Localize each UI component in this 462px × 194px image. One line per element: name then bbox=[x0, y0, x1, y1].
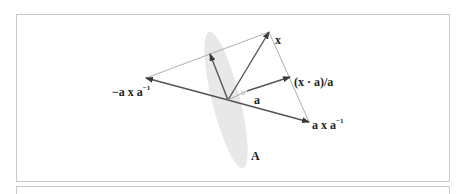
label-a-x-a-inv-base: a x a bbox=[312, 118, 336, 132]
label-plane-A: A bbox=[251, 150, 260, 162]
label-plane-A-text: A bbox=[251, 149, 260, 163]
label-a: a bbox=[254, 94, 260, 106]
label-projection: (x · a)/a bbox=[294, 76, 333, 88]
label-a-x-a-inv: a x a−1 bbox=[312, 119, 344, 131]
label-neg-a-x-a-inv-sup: −1 bbox=[143, 84, 151, 92]
vector-projection bbox=[247, 77, 290, 91]
label-neg-a-x-a-inv: −a x a−1 bbox=[112, 86, 150, 98]
label-x: x bbox=[275, 34, 281, 46]
label-a-x-a-inv-sup: −1 bbox=[336, 117, 344, 125]
label-x-text: x bbox=[275, 33, 281, 47]
label-projection-text: (x · a)/a bbox=[294, 75, 333, 89]
label-neg-a-x-a-inv-base: −a x a bbox=[112, 85, 143, 99]
reflection-diagram bbox=[0, 0, 462, 194]
label-a-text: a bbox=[254, 93, 260, 107]
